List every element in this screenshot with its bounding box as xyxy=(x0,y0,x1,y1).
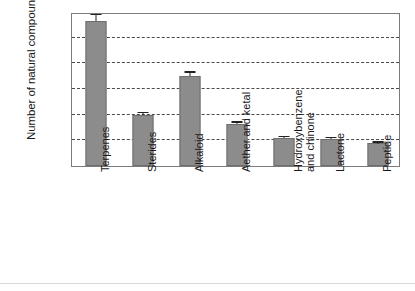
plot-area xyxy=(71,13,400,167)
error-bar-cap xyxy=(278,136,289,138)
x-tick-label: Alkaloid xyxy=(194,42,206,172)
footer-divider xyxy=(0,283,415,284)
bar xyxy=(273,138,294,166)
x-tick-label: Hydroxybenzene and chinone xyxy=(293,42,316,172)
error-bar-cap xyxy=(90,14,101,16)
error-bar-stem xyxy=(142,113,143,115)
error-bar-stem xyxy=(95,15,96,21)
bar-slot xyxy=(119,14,166,166)
x-tick-label: Aether and ketal xyxy=(241,42,253,172)
x-tick-label: Terpenes xyxy=(100,42,112,172)
bar-slot xyxy=(72,14,119,166)
error-bar-stem xyxy=(189,73,190,76)
error-bar-stem xyxy=(283,137,284,138)
x-tick-label: Sterides xyxy=(147,42,159,172)
x-tick-label: Lactone xyxy=(335,42,347,172)
bar-slot xyxy=(354,14,401,166)
bar-slot xyxy=(213,14,260,166)
bar-slot xyxy=(166,14,213,166)
x-tick-label: Peptide xyxy=(382,42,394,172)
y-axis-title: Number of natural compounds xyxy=(25,0,37,149)
bar-chart-figure: Number of natural compounds 050010001500… xyxy=(0,0,415,291)
error-bar-stem xyxy=(330,138,331,139)
error-bar-stem xyxy=(236,123,237,124)
error-bar-stem xyxy=(377,143,378,144)
